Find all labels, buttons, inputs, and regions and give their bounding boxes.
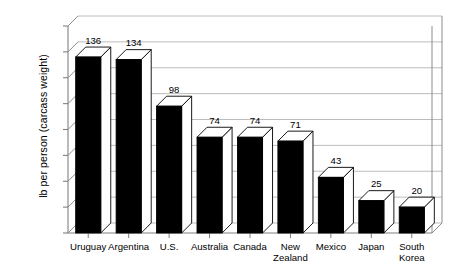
plot-area: 20254371747498134136 <box>0 0 452 278</box>
bar <box>278 131 313 233</box>
bar-value-label: 74 <box>209 115 220 126</box>
bar-value-label: 74 <box>250 115 261 126</box>
bar <box>359 191 394 233</box>
bar <box>399 197 434 233</box>
bar-value-label: 71 <box>290 119 301 130</box>
bar <box>318 167 353 233</box>
bar <box>237 127 272 233</box>
y-axis <box>63 26 68 233</box>
bar-chart: lb per person (carcass weight) 202543717… <box>0 0 452 278</box>
bar <box>157 96 192 233</box>
bar <box>76 47 111 233</box>
bar <box>116 50 151 233</box>
x-axis <box>68 233 432 238</box>
bar-value-label: 25 <box>371 178 382 189</box>
bar-value-label: 134 <box>126 37 143 48</box>
bar-value-label: 136 <box>85 35 101 46</box>
x-axis-label: South Korea <box>388 241 436 263</box>
bar <box>197 127 232 233</box>
bar-value-label: 98 <box>169 84 180 95</box>
bar-value-label: 43 <box>331 155 342 166</box>
bar-value-label: 20 <box>411 185 422 196</box>
